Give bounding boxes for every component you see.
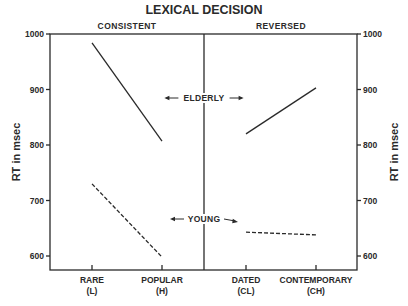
series-line-elderly-reversed [246, 88, 316, 134]
y-axis-label-left: RT in msec [10, 123, 22, 182]
chart-title: LEXICAL DECISION [145, 3, 262, 17]
series-line-elderly-consistent [92, 43, 162, 141]
y-tick-label-left: 800 [30, 140, 44, 150]
y-tick-label-left: 600 [30, 251, 44, 261]
x-tick-sublabel: (L) [87, 286, 98, 296]
arrowhead-right-icon [239, 96, 244, 100]
y-tick-label-right: 600 [363, 251, 377, 261]
x-tick-sublabel: (CL) [238, 286, 255, 296]
x-tick-sublabel: (CH) [307, 286, 325, 296]
y-axis-label-right: RT in msec [388, 123, 400, 182]
x-tick-label: RARE [80, 275, 104, 285]
panel-label-reversed: REVERSED [256, 21, 306, 31]
y-tick-label-right: 1000 [363, 29, 382, 39]
x-tick-sublabel: (H) [156, 286, 168, 296]
series-line-young-consistent [92, 184, 162, 257]
y-tick-label-left: 700 [30, 196, 44, 206]
arrowhead-left-icon [170, 217, 175, 221]
y-tick-label-left: 900 [30, 85, 44, 95]
series-line-young-reversed [246, 232, 316, 235]
x-tick-label: POPULAR [141, 275, 183, 285]
annotation-label-elderly: ELDERLY [184, 93, 225, 103]
y-tick-label-right: 900 [363, 85, 377, 95]
y-tick-label-right: 800 [363, 140, 377, 150]
panel-label-consistent: CONSISTENT [98, 21, 157, 31]
arrowhead-left-icon [164, 96, 169, 100]
y-tick-label-right: 700 [363, 196, 377, 206]
y-tick-label-left: 1000 [25, 29, 44, 39]
annotation-label-young: YOUNG [188, 214, 221, 224]
x-tick-label: DATED [232, 275, 261, 285]
x-tick-label: CONTEMPORARY [280, 275, 353, 285]
lexical-decision-chart: LEXICAL DECISION CONSISTENT REVERSED RT … [0, 0, 408, 306]
arrowhead-right-icon [232, 219, 238, 223]
